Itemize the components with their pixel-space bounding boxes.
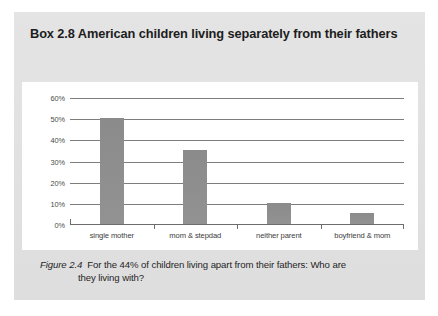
- y-axis-line: [70, 219, 71, 225]
- figure-caption: Figure 2.4 For the 44% of children livin…: [40, 258, 408, 284]
- x-axis-tick-label: single mother: [90, 231, 134, 240]
- gridline: [70, 98, 404, 99]
- y-axis-tick-label: 0%: [55, 221, 65, 230]
- y-axis-tick-label: 30%: [51, 157, 66, 166]
- x-axis-tickmark: [237, 225, 238, 229]
- y-axis-tick-label: 50%: [51, 115, 66, 124]
- bar-mom-stepdad: [183, 150, 207, 224]
- bar-single-mother: [100, 118, 124, 224]
- y-axis-tick-label: 20%: [51, 178, 66, 187]
- x-axis-tick-label: neither parent: [256, 231, 301, 240]
- x-axis-tick-label: boyfriend & mom: [334, 231, 390, 240]
- x-axis-tick-label: mom & stepdad: [169, 231, 221, 240]
- figure-page: Box 2.8 American children living separat…: [0, 0, 438, 316]
- y-axis-tick-label: 10%: [51, 199, 66, 208]
- figure-caption-line-1: For the 44% of children living apart fro…: [87, 259, 346, 270]
- box-title: Box 2.8 American children living separat…: [30, 26, 414, 41]
- chart-panel: 0%10%20%30%40%50%60%single mothermom & s…: [22, 82, 418, 250]
- x-axis-tickmark: [321, 225, 322, 229]
- x-axis-tickmark: [403, 225, 404, 229]
- figure-caption-line-2: they living with?: [78, 271, 408, 284]
- bar-neither-parent: [267, 203, 291, 224]
- bar-boyfriend-mom: [350, 213, 374, 224]
- figure-number-label: Figure 2.4: [40, 259, 82, 270]
- y-axis-tick-label: 60%: [51, 94, 66, 103]
- bar-chart-plot-area: 0%10%20%30%40%50%60%single mothermom & s…: [70, 98, 404, 225]
- box-container: Box 2.8 American children living separat…: [14, 12, 425, 300]
- x-axis-tickmark: [154, 225, 155, 229]
- y-axis-tick-label: 40%: [51, 136, 66, 145]
